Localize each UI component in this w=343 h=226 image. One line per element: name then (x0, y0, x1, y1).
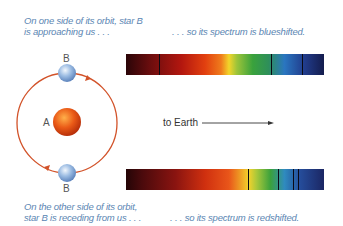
star-a (53, 108, 81, 136)
orbit-diagram (0, 0, 343, 226)
star-b-bottom (58, 164, 76, 182)
star-b-bottom-label: B (63, 183, 70, 194)
to-earth-label: to Earth (163, 117, 198, 128)
star-b-top-label: B (63, 53, 70, 64)
caption-receding: On the other side of its orbit, star B i… (24, 201, 141, 223)
caption-line: On the other side of its orbit, (24, 201, 141, 212)
caption-line: star B is receding from us . . . (24, 212, 141, 223)
to-earth-arrow-icon (202, 121, 274, 125)
star-b-top (58, 64, 76, 82)
star-a-label: A (43, 117, 50, 128)
caption-redshifted: . . . so its spectrum is redshifted. (170, 212, 299, 223)
